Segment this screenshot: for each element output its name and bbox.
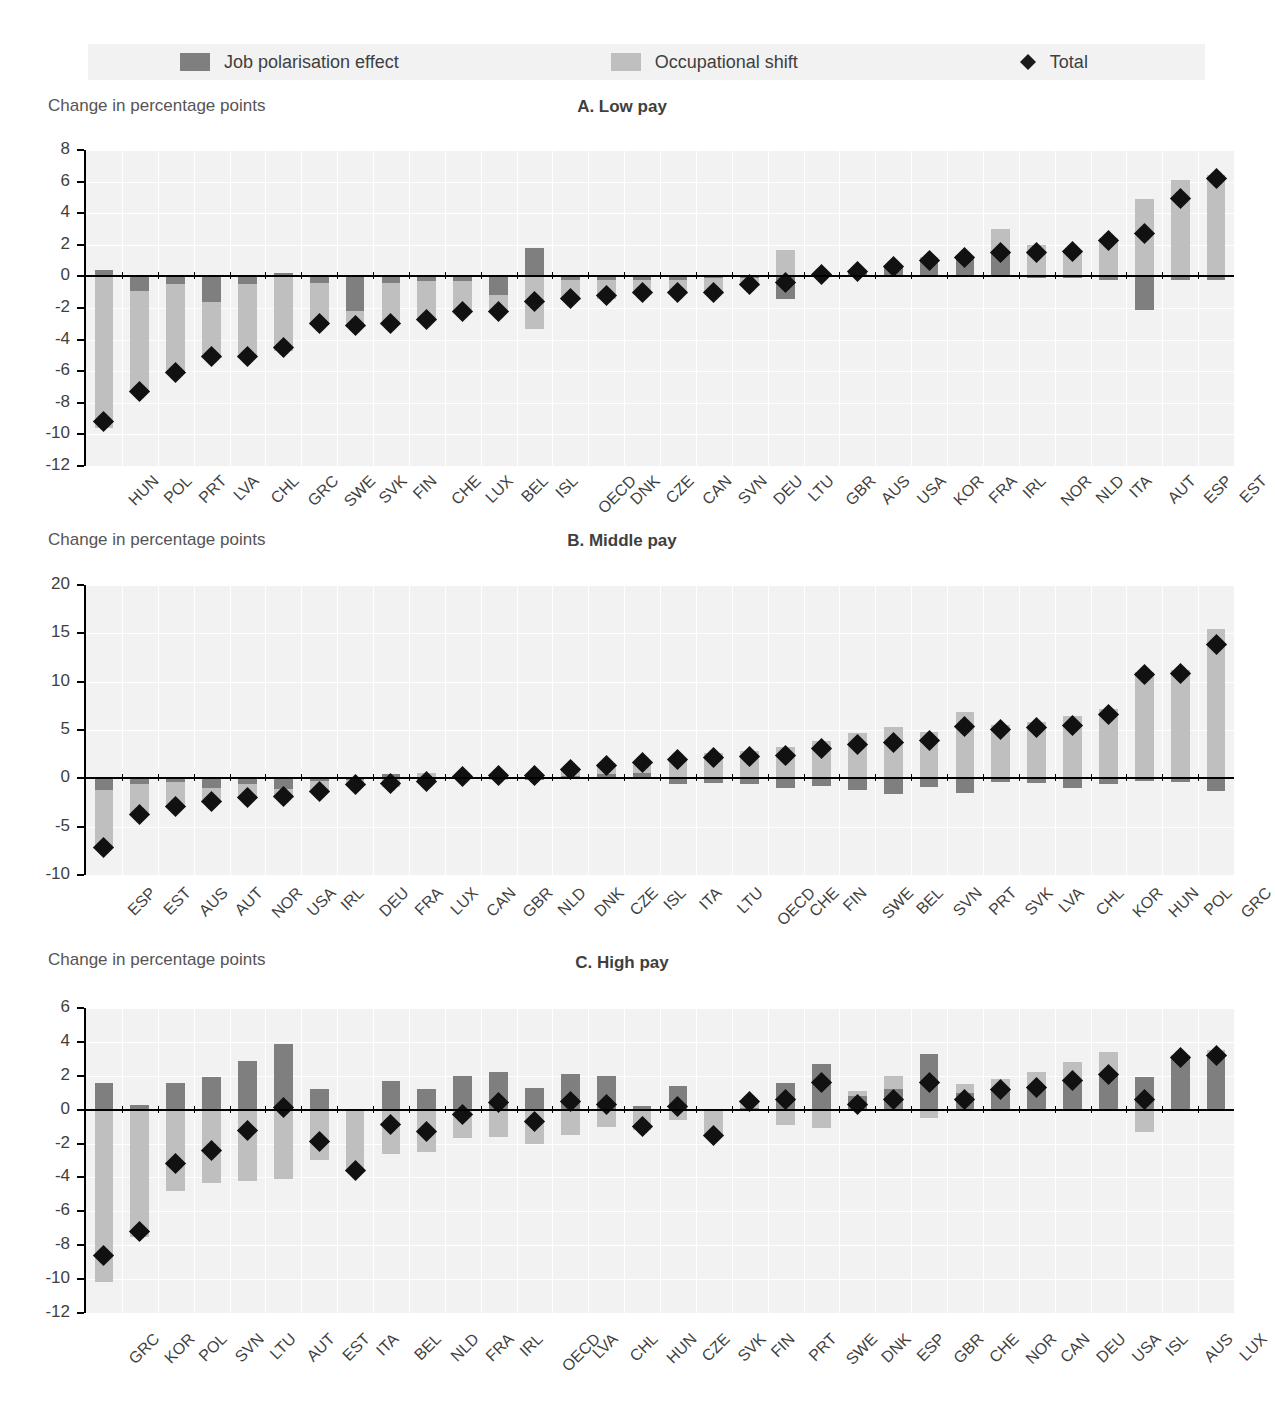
gridline-vertical — [445, 1008, 446, 1313]
x-axis-country-label: NLD — [1093, 472, 1128, 507]
panel-title-b: B. Middle pay — [0, 531, 1244, 551]
gridline-horizontal — [86, 1042, 1234, 1043]
x-axis-country-label: NLD — [555, 884, 590, 919]
x-axis-country-label: DNK — [878, 1330, 915, 1367]
gridline-vertical — [588, 1008, 589, 1313]
x-axis-country-label: EST — [1236, 472, 1271, 507]
bar-job-polarisation — [130, 276, 149, 290]
x-axis-country-label: IRL — [337, 884, 367, 914]
y-axis-tick — [77, 1007, 84, 1009]
x-axis-tick — [804, 272, 805, 279]
gridline-vertical — [660, 1008, 661, 1313]
gridline-vertical — [696, 1008, 697, 1313]
x-axis-country-label: CAN — [483, 884, 520, 921]
x-axis-country-label: USA — [914, 472, 950, 508]
x-axis-country-label: PRT — [806, 1330, 841, 1365]
bar-job-polarisation — [202, 1077, 221, 1109]
x-axis-tick — [301, 774, 302, 781]
bar-job-polarisation — [417, 1089, 436, 1109]
x-axis-country-label: AUT — [232, 884, 267, 919]
y-axis-spine-c — [84, 1008, 86, 1313]
y-axis-tick — [77, 1244, 84, 1246]
y-axis-spine-a — [84, 150, 86, 466]
legend-item-total: Total — [1020, 52, 1088, 73]
y-axis-tick — [77, 1041, 84, 1043]
x-axis-country-label: PRT — [196, 472, 231, 507]
x-axis-tick — [409, 774, 410, 781]
x-axis-country-label: GBR — [519, 884, 556, 921]
bar-occupational-shift — [1135, 1110, 1154, 1132]
x-axis-tick — [1126, 1106, 1127, 1113]
y-axis-label: -2 — [24, 1133, 70, 1153]
bar-occupational-shift — [130, 291, 149, 392]
x-axis-country-label: SVK — [375, 472, 410, 507]
gridline-horizontal — [86, 682, 1234, 683]
y-axis-label: -10 — [24, 423, 70, 443]
x-axis-tick — [301, 1106, 302, 1113]
x-axis-tick — [517, 774, 518, 781]
y-axis-tick — [77, 632, 84, 634]
x-axis-tick — [1091, 774, 1092, 781]
gridline-horizontal — [86, 466, 1234, 467]
legend-label-job-polarisation: Job polarisation effect — [224, 52, 399, 73]
bar-job-polarisation — [1135, 276, 1154, 309]
x-axis-country-label: IRL — [517, 1330, 547, 1360]
x-axis-country-label: CZE — [662, 472, 697, 507]
x-axis-country-label: DEU — [770, 472, 807, 509]
x-axis-tick — [947, 272, 948, 279]
gridline-horizontal — [86, 1144, 1234, 1145]
gridline-horizontal — [86, 1313, 1234, 1314]
x-axis-country-label: AUT — [303, 1330, 338, 1365]
x-axis-country-label: ISL — [660, 884, 690, 914]
x-axis-tick — [732, 1106, 733, 1113]
plot-area-a — [86, 150, 1234, 466]
gridline-vertical — [552, 1008, 553, 1313]
bar-job-polarisation — [920, 778, 939, 787]
x-axis-country-label: SVN — [232, 1330, 268, 1366]
y-axis-label: -6 — [24, 1200, 70, 1220]
y-axis-tick — [77, 307, 84, 309]
x-axis-tick — [194, 774, 195, 781]
y-axis-tick — [77, 826, 84, 828]
x-axis-tick — [1019, 774, 1020, 781]
x-axis-tick — [1091, 1106, 1092, 1113]
y-axis-label: -4 — [24, 1166, 70, 1186]
gridline-vertical — [122, 1008, 123, 1313]
x-axis-tick — [696, 1106, 697, 1113]
x-axis-country-label: EST — [160, 884, 195, 919]
y-axis-tick — [77, 777, 84, 779]
x-axis-country-label: BEL — [518, 472, 552, 506]
x-axis-country-label: AUS — [878, 472, 914, 508]
x-axis-tick — [1162, 774, 1163, 781]
y-axis-label: 8 — [24, 139, 70, 159]
plot-area-c — [86, 1008, 1234, 1313]
y-axis-label: -2 — [24, 297, 70, 317]
x-axis-tick — [158, 1106, 159, 1113]
x-axis-tick — [373, 774, 374, 781]
y-axis-tick — [77, 465, 84, 467]
gridline-vertical — [1198, 1008, 1199, 1313]
gridline-vertical — [1019, 1008, 1020, 1313]
chart-legend: Job polarisation effect Occupational shi… — [88, 44, 1205, 80]
x-axis-tick — [552, 774, 553, 781]
y-axis-label: -10 — [24, 1268, 70, 1288]
x-axis-tick — [1198, 272, 1199, 279]
x-axis-tick — [445, 1106, 446, 1113]
x-axis-country-label: FRA — [985, 472, 1020, 507]
bar-job-polarisation — [238, 1061, 257, 1110]
y-axis-tick — [77, 244, 84, 246]
bar-job-polarisation — [238, 276, 257, 284]
gridline-horizontal — [86, 875, 1234, 876]
bar-job-polarisation — [1063, 778, 1082, 788]
gridline-vertical — [911, 1008, 912, 1313]
bar-occupational-shift — [130, 1110, 149, 1237]
x-axis-tick — [481, 1106, 482, 1113]
x-axis-country-label: SWE — [341, 472, 380, 511]
gridline-vertical — [624, 1008, 625, 1313]
gridline-vertical — [337, 1008, 338, 1313]
x-axis-country-label: ESP — [1200, 472, 1235, 507]
x-axis-country-label: ITA — [373, 1330, 402, 1359]
y-axis-tick — [77, 275, 84, 277]
gridline-vertical — [839, 1008, 840, 1313]
gridline-vertical — [1126, 1008, 1127, 1313]
